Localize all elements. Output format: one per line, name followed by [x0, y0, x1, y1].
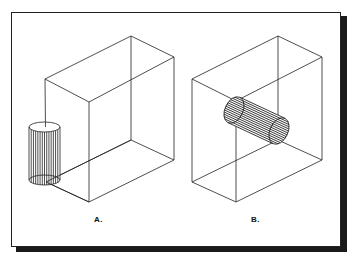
panel-b-drawing [192, 36, 322, 202]
drawing-canvas [0, 0, 353, 257]
figure: A. B. [0, 0, 353, 257]
vertical-cylinder [29, 122, 60, 185]
box-top-edge [131, 36, 174, 57]
horizontal-cylinder [220, 94, 293, 148]
box-bottom-edge [192, 182, 236, 202]
box-bottom-edge [89, 160, 174, 202]
box-bottom-edge [236, 160, 322, 202]
box-bottom-edge [192, 140, 278, 182]
box-top-edge [236, 57, 322, 101]
panel-b-label: B. [251, 215, 260, 224]
box-top-edge [45, 36, 131, 79]
box-top-edge [192, 79, 236, 101]
box-top-edge [278, 36, 322, 57]
box-bottom-edge [131, 140, 174, 160]
panel-a-drawing [29, 36, 174, 202]
box-bottom-edge [46, 182, 89, 202]
box-top-edge [192, 36, 278, 79]
box-bottom-edge [278, 140, 322, 160]
box-top-edge [89, 57, 174, 102]
panel-a-label: A. [94, 215, 103, 224]
box-top-edge [45, 79, 89, 102]
